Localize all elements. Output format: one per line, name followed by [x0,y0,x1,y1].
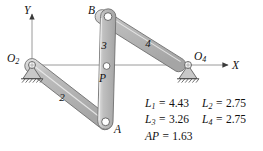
joint-a-pin [102,118,110,126]
dimensions-table: L1 = 4.43 L2 = 2.75 L3 = 3.26 L4 = 2.75 … [145,96,261,144]
dimensions-row: L1 = 4.43 L2 = 2.75 [145,96,261,112]
joint-label-a: A [113,123,122,135]
joint-b-pin [104,13,112,21]
y-axis-label: Y [24,4,32,16]
link-3-label: 3 [100,39,107,51]
dimension-l4: L4 = 2.75 [202,112,259,128]
link-4-label: 4 [145,37,151,49]
dimension-l3: L3 = 3.26 [145,112,202,128]
joint-label-o4: O4 [194,50,206,64]
fourbar-linkage-figure: 2 3 4 O2 O4 A B P X Y L1 = 4.43 L2 = 2.7… [0,0,263,151]
coupler-point-p [103,63,110,70]
dimensions-row: L3 = 3.26 L4 = 2.75 [145,112,261,128]
joint-label-o2: O2 [7,52,19,66]
link-2-highlight [30,63,103,119]
joint-label-b: B [88,4,95,16]
dimensions-row: AP = 1.63 [145,129,261,144]
dimension-l2: L2 = 2.75 [202,96,259,112]
dimension-l1: L1 = 4.43 [145,96,202,112]
o4-ground-hatching [178,79,199,83]
coupler-point-label-p: P [98,72,106,84]
x-axis-label: X [231,59,240,71]
dimension-ap: AP = 1.63 [145,129,202,144]
link-2-label: 2 [59,91,65,103]
